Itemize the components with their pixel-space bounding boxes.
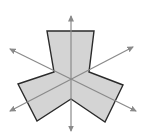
diagram-canvas <box>0 0 144 140</box>
symmetry-diagram: Shape with three-fold rotational symmetr… <box>0 0 144 140</box>
